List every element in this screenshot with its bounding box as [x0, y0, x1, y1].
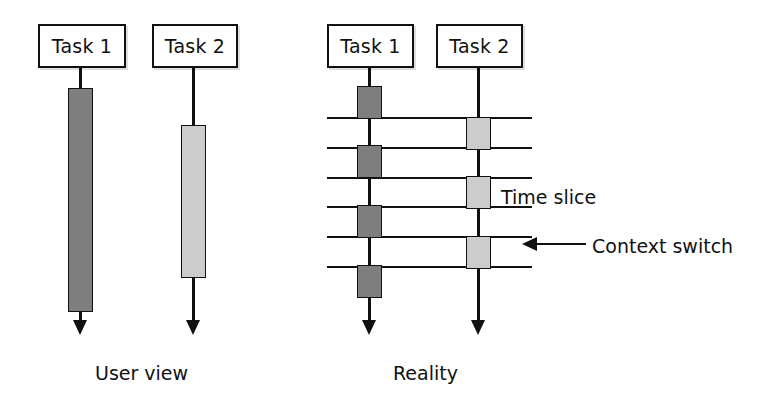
panel-caption-reality: Reality	[393, 362, 458, 384]
annotation-time-slice: Time slice	[501, 186, 596, 208]
execution-block-user-task2	[181, 125, 206, 278]
execution-block-reality-task1	[357, 86, 382, 119]
execution-block-user-task1	[68, 88, 93, 312]
execution-block-reality-task1	[357, 265, 382, 298]
panel-caption-user-view: User view	[95, 362, 188, 384]
timeline-arrowhead-user-task1	[73, 320, 87, 335]
execution-block-reality-task2	[466, 117, 491, 150]
timeline-arrowhead-reality-task2	[471, 320, 485, 335]
execution-block-reality-task2	[466, 176, 491, 209]
annotation-arrow-context-switch	[530, 243, 586, 245]
diagram-canvas: Task 1 Task 2 User view Task 1 Task 2 Re…	[0, 0, 767, 404]
annotation-context-switch: Context switch	[592, 235, 733, 257]
task-box-label: Task 2	[165, 35, 225, 57]
task-box-user-task2: Task 2	[152, 24, 238, 68]
timeline-arrowhead-reality-task1	[362, 320, 376, 335]
execution-block-reality-task2	[466, 236, 491, 269]
task-box-user-task1: Task 1	[38, 24, 126, 68]
execution-block-reality-task1	[357, 145, 382, 178]
task-box-label: Task 1	[340, 35, 400, 57]
task-box-label: Task 2	[449, 35, 509, 57]
execution-block-reality-task1	[357, 205, 382, 238]
task-box-reality-task2: Task 2	[436, 24, 523, 68]
task-box-label: Task 1	[52, 35, 112, 57]
annotation-arrowhead-context-switch	[522, 237, 537, 251]
task-box-reality-task1: Task 1	[327, 24, 414, 68]
timeline-arrowhead-user-task2	[186, 320, 200, 335]
